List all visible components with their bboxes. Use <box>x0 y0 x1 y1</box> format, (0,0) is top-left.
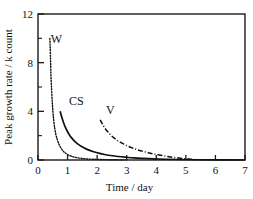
y-tick-label: 8 <box>28 57 34 69</box>
x-tick-label: 4 <box>154 164 160 176</box>
y-tick-label: 4 <box>28 105 34 117</box>
chart-container: 01234567 04812 Time / day Peak growth ra… <box>0 0 253 199</box>
x-tick-label: 6 <box>213 164 219 176</box>
x-axis-title: Time / day <box>106 181 154 193</box>
y-tick-label: 12 <box>22 8 33 20</box>
x-tick-label: 0 <box>35 164 41 176</box>
peak-growth-rate-line-chart: 01234567 04812 Time / day Peak growth ra… <box>0 0 253 199</box>
x-tick-label: 3 <box>124 164 130 176</box>
x-tick-label: 1 <box>65 164 71 176</box>
x-tick-label: 7 <box>242 164 248 176</box>
x-tick-label: 5 <box>183 164 189 176</box>
curve-label-w: W <box>51 32 63 46</box>
y-tick-label: 0 <box>28 154 34 166</box>
curve-label-v: V <box>106 103 115 117</box>
y-axis-title: Peak growth rate / k count <box>2 29 14 145</box>
x-tick-label: 2 <box>94 164 100 176</box>
curve-label-cs: CS <box>69 94 84 108</box>
